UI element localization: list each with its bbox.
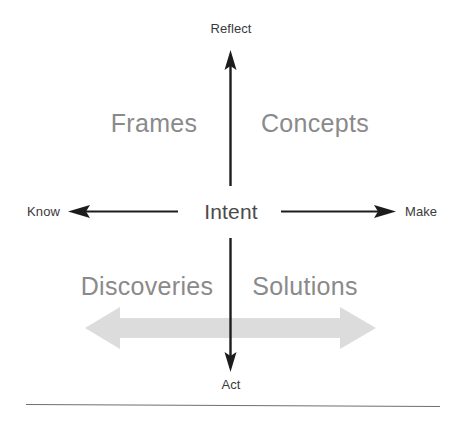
axis-line-up — [225, 50, 237, 186]
axis-label-know: Know — [27, 205, 60, 218]
axis-label-make: Make — [405, 205, 437, 218]
quadrant-label-concepts: Concepts — [261, 111, 369, 136]
axis-line-left — [68, 205, 178, 218]
axis-line-right — [281, 205, 396, 218]
quadrant-label-frames: Frames — [111, 111, 198, 136]
axis-label-reflect: Reflect — [210, 22, 251, 35]
axis-line-down — [225, 238, 237, 372]
axis-label-act: Act — [221, 378, 240, 391]
quadrant-label-solutions: Solutions — [252, 274, 358, 299]
quadrant-label-discoveries: Discoveries — [81, 274, 214, 299]
diagram-canvas: Reflect Act Know Make Intent Frames Conc… — [0, 0, 455, 424]
center-label-intent: Intent — [204, 201, 258, 222]
footer-divider-rule — [26, 405, 440, 407]
